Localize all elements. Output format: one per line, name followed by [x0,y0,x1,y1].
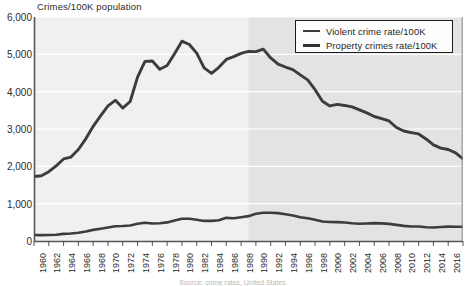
legend-swatch-violent-icon [303,30,320,32]
legend-label-violent: Violent crime rate/100K [326,26,426,37]
x-tick-label: 1994 [289,253,299,273]
x-tick-label: 1970 [111,253,121,273]
y-tick-label: 1,000 [2,198,32,209]
x-tick-label: 1988 [245,253,255,273]
crime-rate-line-chart: Crimes/100K population 01,0002,0003,0004… [0,0,465,286]
x-tick-label: 1976 [156,253,166,273]
y-tick-label: 2,000 [2,161,32,172]
x-tick-label: 1990 [259,253,269,273]
legend-swatch-property-icon [303,44,320,47]
chart-legend: Violent crime rate/100K Property crimes … [295,20,453,53]
x-tick-label: 1972 [126,253,136,273]
x-tick-label: 1986 [230,253,240,273]
x-tick-label: 2006 [378,253,388,273]
x-tick-label: 2004 [363,253,373,273]
x-tick-label: 1964 [67,253,77,273]
chart-footnote: Source: crime rates, United States [0,279,465,286]
x-tick-label: 1962 [52,253,62,273]
legend-item-violent: Violent crime rate/100K [303,24,448,38]
x-tick-label: 1992 [274,253,284,273]
x-tick-label: 1968 [97,253,107,273]
y-tick-label: 6,000 [2,12,32,23]
x-tick-label: 2010 [407,253,417,273]
x-tick-label: 1982 [200,253,210,273]
x-tick-label: 1960 [38,253,48,273]
chart-axis-title: Crimes/100K population [37,1,142,12]
x-tick-label: 1966 [82,253,92,273]
x-tick-label: 1978 [171,253,181,273]
legend-item-property: Property crimes rate/100K [303,38,448,52]
y-tick-label: 5,000 [2,49,32,60]
x-tick-label: 1974 [141,253,151,273]
x-tick-label: 2002 [348,253,358,273]
y-tick-label: 3,000 [2,124,32,135]
x-tick-label: 1998 [319,253,329,273]
x-tick-label: 1984 [215,253,225,273]
x-tick-label: 2014 [437,253,447,273]
x-tick-label: 1996 [304,253,314,273]
y-tick-label: 4,000 [2,86,32,97]
legend-label-property: Property crimes rate/100K [326,40,437,51]
x-tick-label: 1980 [185,253,195,273]
x-tick-label: 2008 [393,253,403,273]
x-tick-label: 2016 [452,253,462,273]
x-tick-label: 2012 [422,253,432,273]
y-axis-labels: 01,0002,0003,0004,0005,0006,000 [0,0,32,286]
x-tick-label: 2000 [333,253,343,273]
